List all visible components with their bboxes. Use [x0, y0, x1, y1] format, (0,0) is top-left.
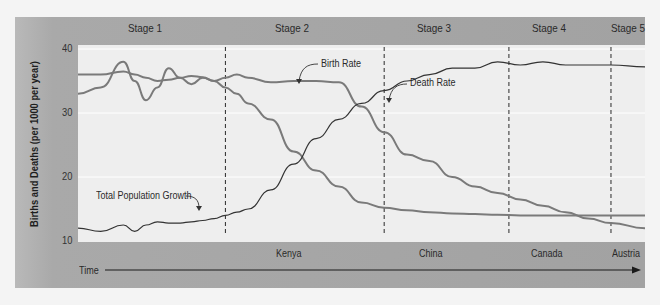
birth-rate-annotation: Birth Rate	[321, 58, 361, 69]
series-lines	[78, 62, 645, 232]
annotation-leaders	[186, 64, 407, 211]
death-rate-annotation: Death Rate	[410, 77, 456, 88]
time-arrow	[105, 267, 641, 274]
birth-rate-line	[78, 71, 645, 228]
total-growth-annotation: Total Population Growth	[96, 190, 192, 201]
chart-svg	[0, 0, 660, 305]
gridlines	[78, 49, 645, 177]
total-population-growth-line	[78, 62, 645, 232]
